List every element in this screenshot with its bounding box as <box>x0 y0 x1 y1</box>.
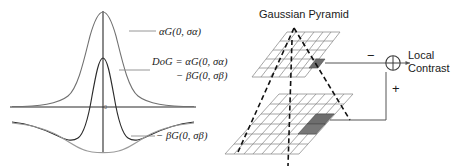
label-alpha-gaussian: αG(0, σα) <box>159 26 201 37</box>
axis-origin-label: 0 <box>104 104 107 110</box>
label-dog-equation-line1: DoG = αG(0, σα) <box>152 56 228 67</box>
highlighted-cell-fine-b <box>298 124 325 134</box>
summing-junction <box>386 56 400 70</box>
label-dog-equation-line2: − βG(0, σβ) <box>176 70 228 81</box>
pyramid-title: Gaussian Pyramid <box>259 9 349 21</box>
highlighted-cell-fine-a <box>307 114 334 124</box>
output-label-line1: Local <box>408 50 434 62</box>
plus-sign-label: + <box>392 81 400 96</box>
minus-sign-label: − <box>367 48 375 63</box>
signal-line-fine <box>330 72 386 120</box>
pyramid-group <box>225 28 410 166</box>
label-negative-beta-gaussian: − βG(0, σβ) <box>156 130 208 141</box>
pyramid-level-coarse <box>252 32 340 77</box>
figure-root: αG(0, σα) DoG = αG(0, σα) − βG(0, σβ) − … <box>0 0 464 166</box>
output-label-line2: Contrast <box>408 63 450 75</box>
